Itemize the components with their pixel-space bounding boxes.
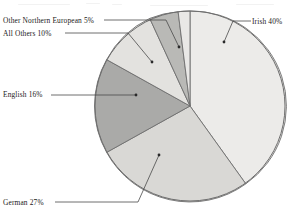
pie-label-english: English 16% [3, 91, 43, 98]
pie-label-irish: Irish 40% [252, 18, 282, 25]
pie-label-other-northern-european: Other Northern European 5% [3, 17, 94, 24]
pie-chart-figure: Other Northern European 5% All Others 10… [0, 0, 299, 217]
pie-label-german: German 27% [3, 199, 44, 206]
pie-label-all-others: All Others 10% [3, 30, 52, 37]
